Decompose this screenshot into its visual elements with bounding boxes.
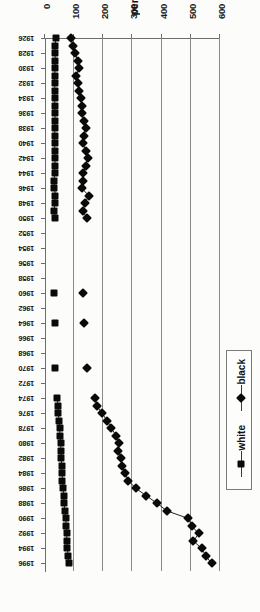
data-point-white (51, 185, 58, 192)
data-point-white (51, 80, 58, 87)
data-point-white (52, 35, 59, 42)
x-tick-label: 1978 (13, 424, 41, 433)
data-point-white (51, 365, 58, 372)
data-point-white (57, 440, 64, 447)
data-point-white (61, 500, 68, 507)
data-point-white (56, 425, 63, 432)
data-point-white (55, 410, 62, 417)
data-point-white (51, 207, 58, 214)
data-point-white (52, 42, 59, 49)
data-point-black (152, 498, 162, 508)
y-axis-title: per 100,000 (129, 0, 141, 32)
x-tick-label: 1936 (13, 109, 41, 118)
x-tick-label: 1972 (13, 379, 41, 388)
x-tick-label: 1928 (13, 49, 41, 58)
data-point-black (123, 476, 133, 486)
data-point-white (52, 192, 59, 199)
x-tick-label: 1956 (13, 259, 41, 268)
data-point-white (57, 432, 64, 439)
data-point-white (52, 215, 59, 222)
data-point-black (82, 363, 92, 373)
data-point-white (51, 200, 58, 207)
data-point-white (65, 560, 72, 567)
x-tick-label: 1934 (13, 94, 41, 103)
data-point-white (65, 552, 72, 559)
data-point-white (51, 110, 58, 117)
x-tick-label: 1926 (13, 34, 41, 43)
data-point-white (59, 477, 66, 484)
data-point-white (51, 140, 58, 147)
x-tick-label: 1964 (13, 319, 41, 328)
x-tick-label: 1982 (13, 454, 41, 463)
data-point-white (52, 65, 59, 72)
x-tick-label: 1966 (13, 334, 41, 343)
data-point-white (62, 515, 69, 522)
x-tick-label: 1944 (13, 169, 41, 178)
data-point-white (52, 117, 59, 124)
data-point-white (52, 155, 59, 162)
data-point-black (131, 483, 141, 493)
x-tick-label: 1948 (13, 199, 41, 208)
x-tick-label: 1976 (13, 409, 41, 418)
y-tick-label: 100 (70, 4, 81, 32)
data-point-white (61, 507, 68, 514)
x-tick-label: 1958 (13, 274, 41, 283)
x-tick-label: 1992 (13, 529, 41, 538)
data-point-black (77, 183, 87, 193)
data-point-white (51, 125, 58, 132)
x-tick-label: 1930 (13, 64, 41, 73)
x-tick-label: 1988 (13, 499, 41, 508)
data-point-white (51, 177, 58, 184)
data-point-white (51, 132, 58, 139)
data-point-black (142, 491, 152, 501)
x-tick-label: 1940 (13, 139, 41, 148)
data-point-black (162, 506, 172, 516)
x-tick-label: 1996 (13, 559, 41, 568)
x-tick-label: 1932 (13, 79, 41, 88)
data-point-white (51, 320, 58, 327)
y-tick-label: 400 (158, 4, 169, 32)
x-tick-label: 1990 (13, 514, 41, 523)
x-tick-label: 1994 (13, 544, 41, 553)
plot-area (45, 38, 220, 571)
x-tick-label: 1946 (13, 184, 41, 193)
x-tick-label: 1954 (13, 244, 41, 253)
x-tick-label: 1984 (13, 469, 41, 478)
data-point-black (78, 288, 88, 298)
y-tick-label: 500 (187, 4, 198, 32)
data-point-black (189, 536, 199, 546)
x-tick-label: 1968 (13, 349, 41, 358)
data-point-white (51, 102, 58, 109)
data-point-white (51, 147, 58, 154)
x-tick-label: 1960 (13, 289, 41, 298)
x-tick-label: 1970 (13, 364, 41, 373)
data-point-black (207, 559, 217, 569)
data-point-white (60, 492, 67, 499)
x-tick-label: 1938 (13, 124, 41, 133)
data-point-white (58, 455, 65, 462)
data-point-white (63, 530, 70, 537)
data-point-white (51, 290, 58, 297)
data-point-white (51, 170, 58, 177)
data-point-white (59, 470, 66, 477)
data-point-white (51, 87, 58, 94)
data-point-white (58, 447, 65, 454)
data-point-black (79, 318, 89, 328)
y-tick-label: 200 (99, 4, 110, 32)
y-tick-label: 600 (216, 4, 227, 32)
data-point-white (55, 402, 62, 409)
data-point-white (51, 72, 58, 79)
x-tick-label: 1952 (13, 229, 41, 238)
data-point-white (58, 462, 65, 469)
data-point-white (51, 50, 58, 57)
x-tick-label: 1950 (13, 214, 41, 223)
data-point-black (194, 529, 204, 539)
data-point-white (56, 417, 63, 424)
x-tick-label: 1974 (13, 394, 41, 403)
data-point-white (63, 522, 70, 529)
x-tick-label: 1962 (13, 304, 41, 313)
chart-figure: blackwhite 0100200300400500600 192619281… (0, 0, 260, 612)
x-tick-label: 1986 (13, 484, 41, 493)
data-point-white (54, 395, 61, 402)
x-tick-label: 1942 (13, 154, 41, 163)
